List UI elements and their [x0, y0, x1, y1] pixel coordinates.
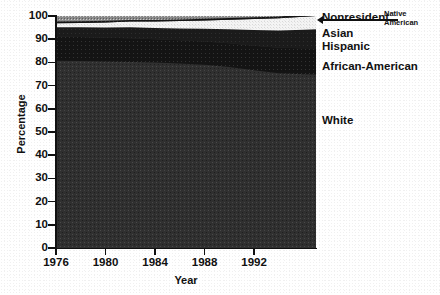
y-tick-mark	[48, 15, 55, 17]
chart-title-cropped: College Enrollment by Race	[120, 0, 320, 4]
y-tick-label: 0	[2, 242, 48, 254]
native-american-leader-line	[322, 19, 398, 21]
y-tick-mark	[48, 224, 55, 226]
x-tick-mark	[204, 248, 206, 255]
y-tick-label: 20	[2, 196, 48, 208]
y-tick-mark	[48, 108, 55, 110]
y-tick-label: 10	[2, 219, 48, 231]
series-label-asian: Asian	[322, 27, 353, 39]
plot-area	[56, 16, 316, 248]
y-tick-label: 30	[2, 172, 48, 184]
y-tick-mark	[48, 178, 55, 180]
y-tick-mark	[48, 247, 55, 249]
series-label-white: White	[322, 114, 353, 126]
y-tick-mark	[48, 85, 55, 87]
x-tick-mark	[55, 248, 57, 255]
series-label-african-american: African-American	[322, 60, 418, 72]
y-tick-label: 80	[2, 56, 48, 68]
series-label-nonresident: Nonresident	[322, 11, 389, 23]
x-tick-mark	[253, 248, 255, 255]
stacked-area-svg	[56, 16, 316, 248]
area-band-white	[56, 61, 316, 248]
x-tick-label: 1988	[180, 256, 230, 268]
native-american-arrow-icon	[317, 16, 323, 24]
x-tick-label: 1992	[229, 256, 279, 268]
x-tick-label: 1984	[130, 256, 180, 268]
x-tick-label: 1980	[81, 256, 131, 268]
y-tick-mark	[48, 38, 55, 40]
y-tick-mark	[48, 62, 55, 64]
y-tick-mark	[48, 131, 55, 133]
y-axis-line	[55, 15, 57, 249]
y-tick-label: 90	[2, 33, 48, 45]
x-tick-mark	[105, 248, 107, 255]
series-label-hispanic: Hispanic	[322, 40, 370, 52]
y-tick-label: 100	[2, 10, 48, 22]
stacked-bands	[56, 16, 316, 248]
y-axis-title: Percentage	[15, 79, 27, 169]
x-axis-title: Year	[131, 274, 241, 286]
x-tick-mark	[154, 248, 156, 255]
y-tick-mark	[48, 154, 55, 156]
x-axis-line	[55, 248, 317, 250]
x-tick-label: 1976	[31, 256, 81, 268]
y-tick-mark	[48, 201, 55, 203]
